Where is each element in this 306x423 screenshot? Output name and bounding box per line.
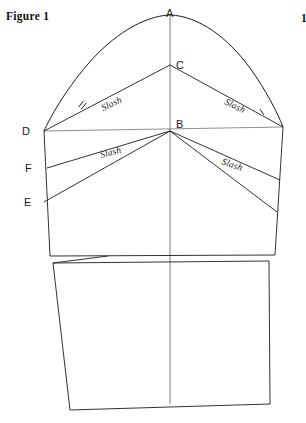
sleeve-pattern-diagram: Figure 1 1 A C [0, 0, 306, 423]
page-edge-character: 1 [301, 12, 306, 24]
point-label-a: A [166, 7, 174, 19]
figure-caption: Figure 1 [6, 10, 49, 23]
point-label-c: C [176, 59, 184, 71]
diagram-background [0, 0, 306, 423]
figure-canvas: Figure 1 1 A C [0, 0, 306, 423]
point-label-e: E [24, 196, 31, 208]
point-label-b: B [176, 118, 183, 130]
point-label-f: F [25, 162, 32, 174]
point-label-d: D [22, 125, 30, 137]
